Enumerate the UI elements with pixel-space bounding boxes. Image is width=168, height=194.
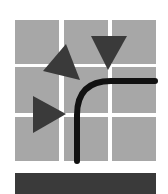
triangle-down-icon	[91, 36, 127, 70]
triangle-up-left-icon	[43, 44, 80, 80]
triangle-right-icon	[33, 96, 66, 133]
logo-shapes	[0, 0, 168, 194]
bottom-bar	[15, 173, 156, 194]
curved-road-icon	[77, 81, 155, 161]
logo-graphic	[0, 0, 168, 194]
